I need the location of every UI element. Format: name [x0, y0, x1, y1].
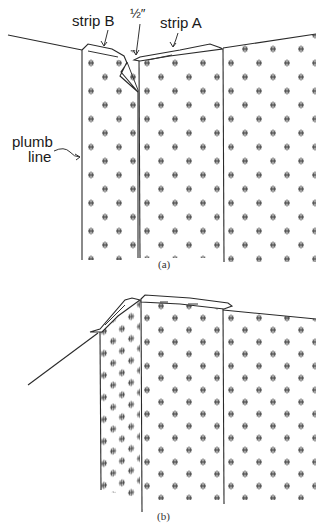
- strip-right-b: [224, 310, 316, 500]
- arrow-plumb-line: [54, 149, 80, 157]
- caption-a: (a): [158, 258, 171, 271]
- strip-middle-b: [141, 295, 232, 512]
- panel-a: strip B ½″ strip A plumb line (a): [8, 6, 316, 271]
- strip-right: [224, 34, 316, 262]
- caption-b: (b): [157, 510, 170, 523]
- label-strip-a: strip A: [160, 14, 202, 31]
- strip-a: [134, 44, 224, 262]
- label-half-inch: ½″: [130, 6, 146, 21]
- label-strip-b: strip B: [72, 12, 115, 29]
- wallpaper-diagram: strip B ½″ strip A plumb line (a): [0, 0, 329, 530]
- ceiling-line-left-b: [28, 333, 98, 385]
- strip-left-b: [90, 298, 140, 498]
- arrow-strip-a: [173, 33, 178, 47]
- panel-b: (b): [28, 295, 316, 523]
- strip-b: [82, 44, 139, 260]
- ceiling-line-left: [8, 35, 82, 50]
- label-line: line: [28, 148, 51, 165]
